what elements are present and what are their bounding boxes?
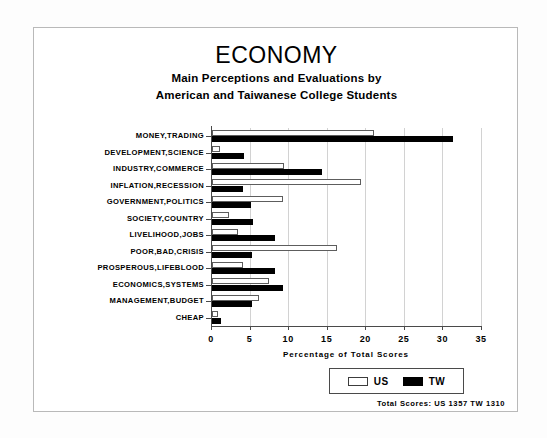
bar-us [212, 295, 259, 301]
gridline [327, 128, 328, 326]
bar-tw [212, 202, 251, 208]
x-axis-tick [442, 326, 443, 330]
bar-us [212, 311, 218, 317]
y-axis-tick [206, 301, 211, 302]
bar-us [212, 146, 220, 152]
bar-us [212, 278, 269, 284]
legend: US TW [329, 368, 464, 394]
y-axis-tick [206, 202, 211, 203]
chart-title: ECONOMY [34, 42, 519, 68]
y-axis-tick [206, 318, 211, 319]
y-axis-category-label: LIVELIHOOD,JOBS [130, 230, 204, 239]
bar-us [212, 163, 284, 169]
y-axis-tick [206, 268, 211, 269]
x-axis-tick [250, 326, 251, 330]
chart-subtitle-line-2: American and Taiwanese College Students [34, 88, 519, 102]
gridline [442, 128, 443, 326]
x-axis-tick-label: 30 [437, 334, 448, 344]
gridline [481, 128, 482, 326]
legend-item-us: US [348, 376, 389, 387]
total-scores-note: Total Scores: US 1357 TW 1310 [377, 399, 505, 408]
x-axis-tick-label: 0 [208, 334, 214, 344]
bar-tw [212, 153, 244, 159]
legend-label-tw: TW [429, 376, 446, 387]
gridline [365, 128, 366, 326]
x-axis-tick-label: 25 [398, 334, 409, 344]
bar-tw [212, 169, 322, 175]
bar-us [212, 212, 229, 218]
x-axis-tick [404, 326, 405, 330]
y-axis-tick [206, 186, 211, 187]
bar-tw [212, 186, 243, 192]
y-axis-category-label: ECONOMICS,SYSTEMS [113, 280, 204, 289]
y-axis-tick [206, 136, 211, 137]
legend-swatch-tw-icon [403, 377, 423, 386]
x-axis-tick [365, 326, 366, 330]
chart-subtitle-line-1: Main Perceptions and Evaluations by [34, 71, 519, 85]
gridline [404, 128, 405, 326]
y-axis-category-label: INDUSTRY,COMMERCE [113, 164, 204, 173]
bar-us [212, 262, 243, 268]
y-axis-tick [206, 153, 211, 154]
y-axis-category-label: CHEAP [176, 313, 204, 322]
bar-tw [212, 252, 252, 258]
y-axis-category-label: INFLATION,RECESSION [111, 181, 204, 190]
bar-us [212, 196, 283, 202]
x-axis-tick-label: 35 [475, 334, 486, 344]
gridline [288, 128, 289, 326]
legend-label-us: US [374, 376, 389, 387]
y-axis-tick [206, 235, 211, 236]
y-axis-category-label: PROSPEROUS,LIFEBLOOD [97, 263, 204, 272]
bar-tw [212, 301, 252, 307]
x-axis-tick [481, 326, 482, 330]
chart-frame: ECONOMY Main Perceptions and Evaluations… [33, 27, 518, 412]
y-axis-tick [206, 219, 211, 220]
bar-tw [212, 136, 453, 142]
x-axis-tick-label: 15 [321, 334, 332, 344]
bar-tw [212, 285, 283, 291]
legend-swatch-us-icon [348, 377, 368, 386]
bar-tw [212, 318, 221, 324]
bar-tw [212, 235, 275, 241]
title-block: ECONOMY Main Perceptions and Evaluations… [34, 42, 519, 102]
y-axis-category-label: MANAGEMENT,BUDGET [109, 296, 204, 305]
y-axis-category-label: MONEY,TRADING [136, 131, 204, 140]
bar-tw [212, 219, 253, 225]
bar-us [212, 245, 337, 251]
x-axis-line [211, 326, 482, 327]
x-axis-tick-label: 20 [360, 334, 371, 344]
x-axis-title: Percentage of Total Scores [211, 350, 481, 359]
y-axis-category-label: GOVERNMENT,POLITICS [107, 197, 204, 206]
bar-tw [212, 268, 275, 274]
chart-page: ECONOMY Main Perceptions and Evaluations… [0, 0, 547, 438]
x-axis-tick-label: 10 [283, 334, 294, 344]
y-axis-tick [206, 169, 211, 170]
x-axis-tick [211, 326, 212, 330]
y-axis-category-label: DEVELOPMENT,SCIENCE [105, 148, 204, 157]
bar-us [212, 179, 361, 185]
y-axis-category-label: SOCIETY,COUNTRY [127, 214, 204, 223]
plot-area: 05101520253035MONEY,TRADINGDEVELOPMENT,S… [211, 128, 481, 326]
x-axis-tick-label: 5 [247, 334, 253, 344]
legend-item-tw: TW [403, 376, 446, 387]
y-axis-tick [206, 285, 211, 286]
y-axis-tick [206, 252, 211, 253]
y-axis-category-label: POOR,BAD,CRISIS [130, 247, 204, 256]
x-axis-tick [288, 326, 289, 330]
bar-us [212, 130, 374, 136]
bar-us [212, 229, 238, 235]
x-axis-tick [327, 326, 328, 330]
